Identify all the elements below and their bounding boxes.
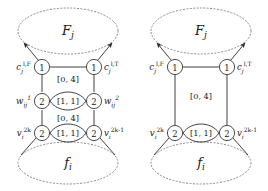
node-label-v-odd: vi2k-1	[237, 126, 257, 140]
arrow-out-left	[157, 43, 172, 61]
node-label-v-even: vi2k	[17, 126, 32, 140]
arrow-out-left	[24, 43, 39, 61]
node-c-false-value: 1	[39, 63, 44, 73]
leg-bottom-right	[100, 138, 115, 155]
leg-bottom-left	[154, 138, 169, 155]
leg-bottom-left	[21, 138, 36, 155]
node-w-two-value: 2	[91, 97, 96, 107]
edge-label-bottom-lens: [1, 1]	[190, 128, 212, 138]
node-v-even-value: 2	[172, 129, 177, 139]
gadget-figure: Fj fi 1 1 2 2	[0, 0, 268, 191]
edge-label-lower: [0, 4]	[57, 113, 79, 123]
edge-label-top: [0, 4]	[57, 74, 79, 84]
node-label-c-true: cjl,T	[237, 60, 252, 75]
figure-root: Fj fi 1 1 2 2	[0, 0, 268, 191]
node-label-w-two: wij2	[104, 94, 119, 109]
bottom-set-label: fi	[196, 155, 205, 172]
node-c-false-value: 1	[172, 63, 177, 73]
bottom-set-label: fi	[63, 155, 72, 172]
node-w-one-value: 2	[39, 97, 44, 107]
node-c-true-value: 1	[91, 63, 96, 73]
node-label-c-false: cjl,F	[149, 60, 164, 75]
top-set-label: Fj	[194, 23, 207, 40]
node-label-w-one: wij1	[16, 94, 31, 109]
node-label-v-odd: vi2k-1	[104, 126, 124, 140]
arrow-out-right	[98, 43, 113, 61]
arrow-out-right	[231, 43, 246, 61]
edge-label-vertical: [0, 4]	[190, 91, 212, 101]
node-label-c-true: cjl,T	[104, 60, 119, 75]
node-label-v-even: vi2k	[150, 126, 165, 140]
edge-label-bottom-lens: [1, 1]	[57, 128, 79, 138]
left-panel: Fj fi 1 1 2 2	[16, 8, 124, 184]
node-c-true-value: 1	[224, 63, 229, 73]
node-v-odd-value: 2	[91, 129, 96, 139]
node-label-c-false: cjl,F	[16, 60, 31, 75]
leg-bottom-right	[233, 138, 248, 155]
node-v-even-value: 2	[39, 129, 44, 139]
top-set-label: Fj	[61, 23, 74, 40]
node-v-odd-value: 2	[224, 129, 229, 139]
edge-label-middle-lens: [1, 1]	[57, 96, 79, 106]
right-panel: Fj fi 1 1 2 2 cjl,F	[149, 8, 257, 184]
